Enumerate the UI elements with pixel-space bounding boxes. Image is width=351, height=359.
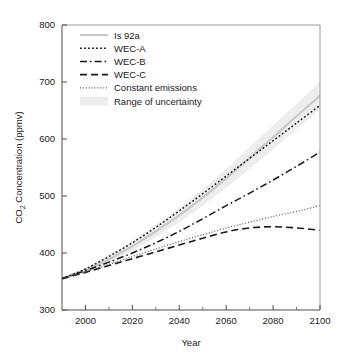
legend-item: Is 92a xyxy=(80,30,141,41)
x-tick-label: 2000 xyxy=(75,315,96,326)
x-tick-label: 2100 xyxy=(309,315,330,326)
y-tick-label: 600 xyxy=(39,133,55,144)
legend-swatch-band xyxy=(80,97,108,106)
series-line-wec-b xyxy=(62,152,320,279)
axis-spines xyxy=(62,25,320,310)
x-tick-label: 2020 xyxy=(122,315,143,326)
legend-item: WEC-A xyxy=(80,43,146,54)
co2-concentration-chart: 3004005006007008002000202020402060208021… xyxy=(0,0,351,359)
legend-item: Range of uncertainty xyxy=(80,96,202,107)
legend-label: WEC-A xyxy=(114,43,146,54)
legend-label: Constant emissions xyxy=(114,82,197,93)
legend-item: WEC-C xyxy=(80,69,146,80)
legend-label: Is 92a xyxy=(114,30,141,41)
y-axis-title: CO2 Concentration (ppmv) xyxy=(13,111,27,223)
y-tick-label: 700 xyxy=(39,76,55,87)
y-tick-label: 300 xyxy=(39,304,55,315)
legend-item: Constant emissions xyxy=(80,82,197,93)
y-tick-label: 800 xyxy=(39,19,55,30)
legend-item: WEC-B xyxy=(80,56,146,67)
x-axis-title: Year xyxy=(181,337,200,348)
uncertainty-band xyxy=(62,82,320,280)
axes: 3004005006007008002000202020402060208021… xyxy=(13,19,331,348)
y-tick-label: 400 xyxy=(39,247,55,258)
legend-label: WEC-C xyxy=(114,69,146,80)
axis-frame-top-right xyxy=(62,25,320,310)
legend: Is 92aWEC-AWEC-BWEC-CConstant emissionsR… xyxy=(80,30,202,107)
x-tick-label: 2040 xyxy=(169,315,190,326)
chart-canvas: 3004005006007008002000202020402060208021… xyxy=(0,0,351,359)
x-tick-label: 2060 xyxy=(216,315,237,326)
legend-label: Range of uncertainty xyxy=(114,96,202,107)
series-line-wec-c xyxy=(62,227,320,279)
y-tick-label: 500 xyxy=(39,190,55,201)
legend-label: WEC-B xyxy=(114,56,146,67)
x-tick-label: 2080 xyxy=(263,315,284,326)
